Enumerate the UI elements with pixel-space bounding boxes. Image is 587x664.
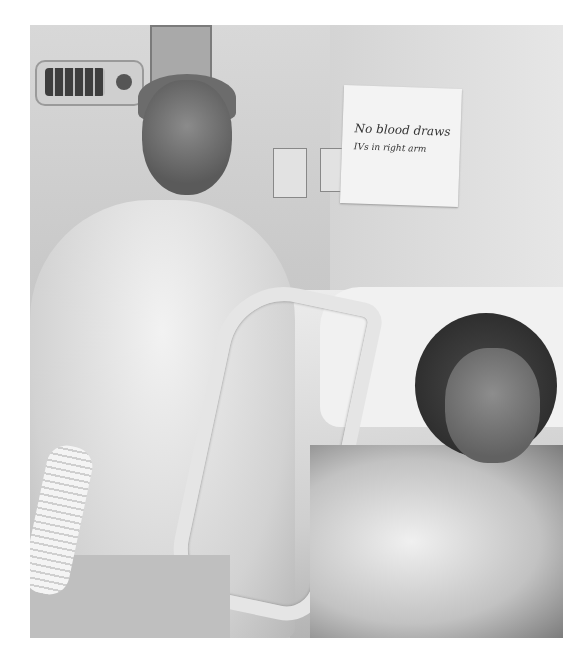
hospital-photo: No blood draws IVs in right arm xyxy=(30,25,563,638)
sign-line-1: No blood draws xyxy=(354,121,450,138)
patient xyxy=(415,313,557,468)
face xyxy=(142,80,232,195)
sign-line-2: IVs in right arm xyxy=(354,141,427,154)
hospital-gown xyxy=(310,445,563,638)
handwritten-sign: No blood draws IVs in right arm xyxy=(340,85,462,207)
patient-face xyxy=(445,348,540,463)
